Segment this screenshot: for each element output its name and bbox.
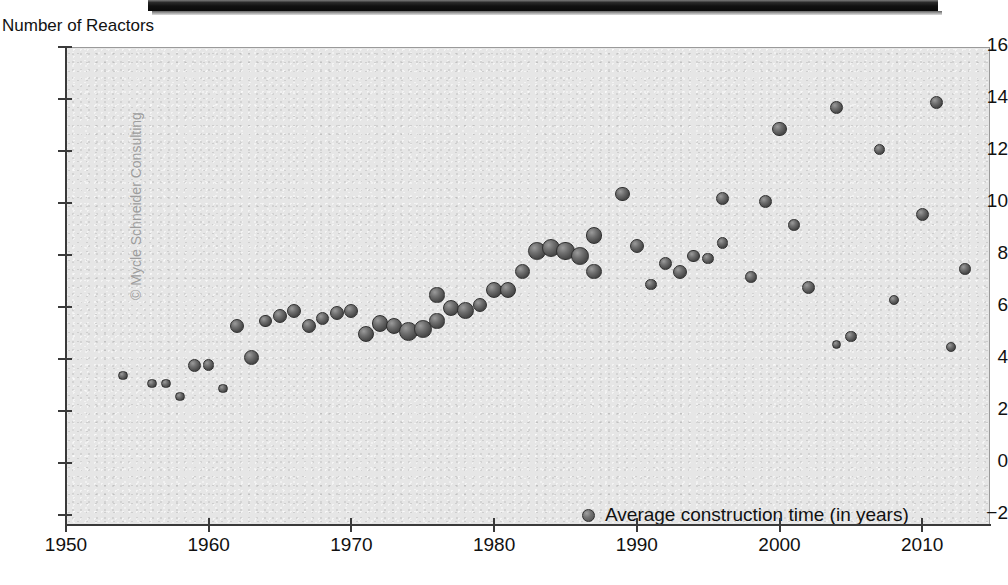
scatter-point [500,282,516,298]
scatter-point [916,208,929,221]
x-tick-label: 2000 [740,534,820,556]
y-tick-label: 10 [956,190,1008,212]
y-tick-label: 8 [956,242,1008,264]
x-tick-label: 1980 [454,534,534,556]
scatter-point [287,304,301,318]
scatter-point [586,264,601,279]
x-tick-label: 1970 [311,534,391,556]
plot-area: © Mycle Schneider Consulting Average con… [66,47,990,525]
scatter-point [302,319,316,333]
watermark: © Mycle Schneider Consulting [128,76,144,336]
scatter-point [473,298,487,312]
scatter-point [429,287,444,302]
y-tick-label: 16 [956,34,1008,56]
y-tick [58,514,72,516]
scatter-point [571,247,589,265]
scatter-point [717,237,729,249]
y-tick-label: 12 [956,138,1008,160]
scatter-point [273,309,287,323]
y-tick [58,150,72,152]
x-axis-line [65,524,991,526]
scatter-point [118,371,128,381]
scatter-point [175,392,185,402]
x-tick [493,518,495,532]
scatter-point [946,342,956,352]
scatter-point [959,263,971,275]
y-tick [58,202,72,204]
scatter-point [358,326,374,342]
scatter-point [344,304,358,318]
y-tick [58,410,72,412]
scatter-point [615,187,629,201]
scatter-point [218,384,228,394]
scatter-point [772,122,786,136]
y-tick [58,46,72,48]
y-tick-label: 4 [956,346,1008,368]
scatter-point [889,295,899,305]
y-tick [58,306,72,308]
y-axis-title: Number of Reactors [2,16,154,36]
y-tick [58,462,72,464]
scatter-point [716,192,729,205]
scatter-point [230,319,244,333]
x-tick [779,518,781,532]
chart-legend: Average construction time (in years) [582,504,909,525]
y-tick-label: 6 [956,294,1008,316]
scatter-point [330,306,344,320]
scatter-point [457,302,475,320]
scatter-point [845,331,857,343]
scatter-point [759,195,772,208]
x-tick-label: 1990 [597,534,677,556]
page-title-bar-shadow [152,11,942,15]
scatter-point [687,250,700,263]
x-tick [636,518,638,532]
y-tick-label: −2 [956,502,1008,524]
scatter-point [316,312,329,325]
scatter-point [188,359,201,372]
y-tick-label: 2 [956,398,1008,420]
legend-marker-icon [582,509,595,522]
y-tick [58,98,72,100]
x-tick [921,518,923,532]
scatter-point [802,281,815,294]
scatter-point [203,359,215,371]
x-tick [65,518,67,532]
scatter-point [586,227,603,244]
scatter-point [147,379,157,389]
scatter-point [244,350,259,365]
scatter-point [645,279,657,291]
scatter-point [874,144,886,156]
scatter-point [429,313,444,328]
scatter-point [515,264,530,279]
x-tick-label: 2010 [882,534,962,556]
y-axis-line [65,46,67,526]
x-tick-label: 1950 [26,534,106,556]
x-tick-label: 1960 [169,534,249,556]
plot-paper-texture [66,48,989,525]
page-title-bar [148,0,938,11]
y-tick-label: 14 [956,86,1008,108]
legend-label: Average construction time (in years) [605,504,909,525]
scatter-point [788,219,800,231]
x-tick [208,518,210,532]
y-tick-label: 0 [956,450,1008,472]
x-tick [350,518,352,532]
scatter-point [630,239,644,253]
y-tick [58,358,72,360]
scatter-point [673,265,687,279]
y-tick [58,254,72,256]
scatter-point [832,340,842,350]
scatter-point [745,271,757,283]
scatter-point [161,379,171,389]
scatter-point [659,257,672,270]
scatter-point [702,253,714,265]
scatter-point [259,315,272,328]
scatter-point [830,101,843,114]
scatter-point [930,96,943,109]
chart-figure: Number of Reactors © Mycle Schneider Con… [0,0,1008,585]
